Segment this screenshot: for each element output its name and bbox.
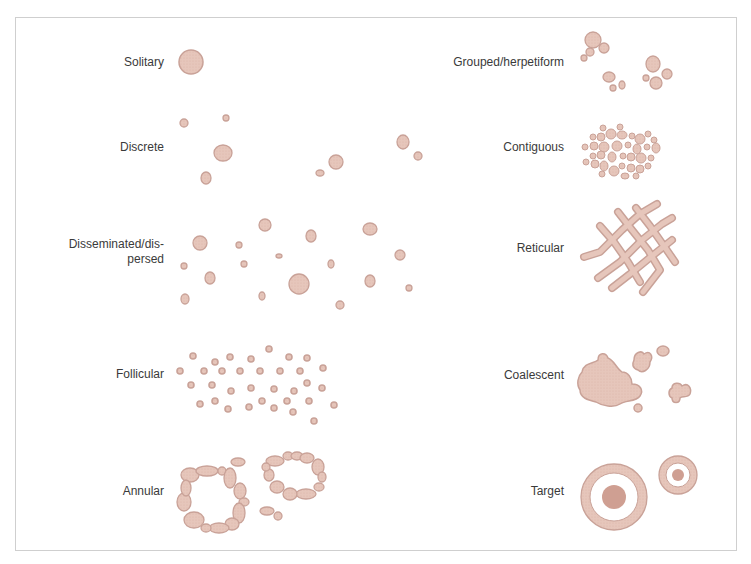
disseminated-lesions-icon — [181, 219, 412, 309]
follicular-lesions-icon — [177, 346, 337, 424]
reticular-pattern-icon — [584, 204, 675, 292]
coalescent-lesions-icon — [578, 346, 691, 412]
discrete-lesions-icon — [180, 115, 422, 184]
target-lesions-icon — [581, 456, 697, 530]
annular-lesions-icon — [177, 452, 326, 533]
grouped-herpetiform-lesions-icon — [581, 32, 672, 91]
solitary-lesion-icon — [179, 50, 203, 74]
contiguous-lesions-icon — [582, 124, 660, 179]
lesion-illustrations — [0, 0, 751, 564]
